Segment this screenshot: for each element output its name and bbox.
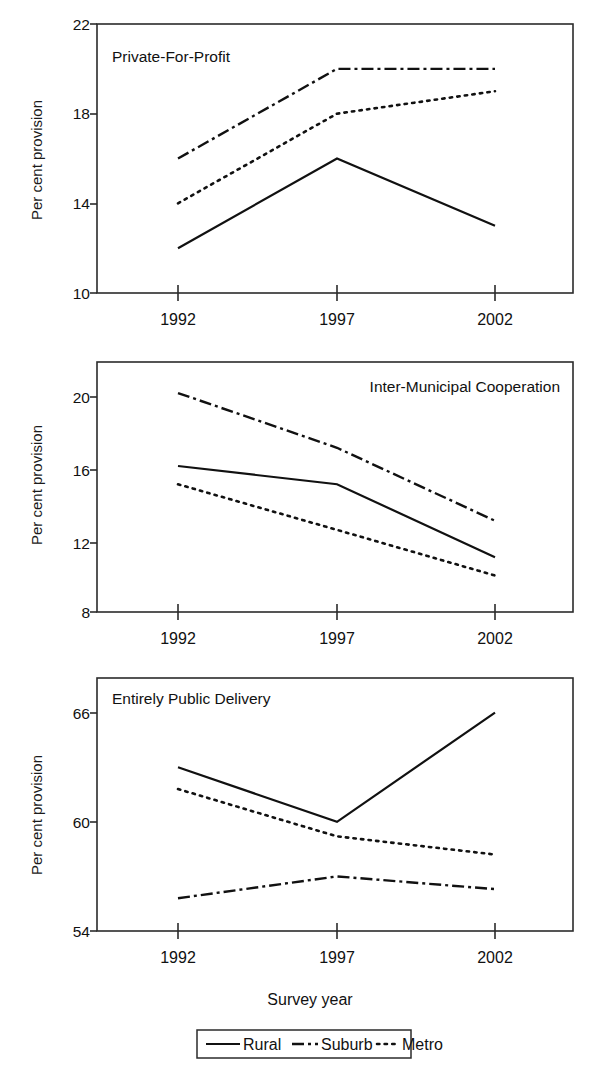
y-axis-title: Per cent provision xyxy=(28,425,45,545)
x-tick-label-1992: 1992 xyxy=(160,311,196,328)
y-axis-title: Per cent provision xyxy=(28,100,45,220)
x-tick-label-2002: 2002 xyxy=(477,311,513,328)
chart-panel-2: Per cent provision 20 16 12 8 1992 1997 … xyxy=(0,340,599,670)
figure-panel-series: Per cent provision 22 18 14 10 1992 1997… xyxy=(0,0,599,1077)
x-tick-label-1997: 1997 xyxy=(319,311,355,328)
y-tick-label-20: 20 xyxy=(73,389,91,406)
chart-1-svg: Per cent provision 22 18 14 10 1992 1997… xyxy=(0,0,599,340)
plot-frame xyxy=(97,678,573,931)
series-line-suburb xyxy=(178,393,495,521)
y-tick-label-66: 66 xyxy=(73,705,90,722)
x-tick-label-1992: 1992 xyxy=(160,630,196,647)
x-tick-label-1997: 1997 xyxy=(319,949,355,966)
legend-item-suburb[interactable]: Suburb xyxy=(292,1036,373,1053)
series-line-metro xyxy=(178,91,495,203)
x-axis-title: Survey year xyxy=(267,991,353,1008)
y-tick-label-10: 10 xyxy=(73,285,91,302)
y-tick-label-18: 18 xyxy=(73,105,90,122)
x-tick-label-2002: 2002 xyxy=(477,949,513,966)
series-line-rural xyxy=(178,713,495,822)
legend[interactable]: Rural Suburb Metro xyxy=(197,1030,443,1058)
panel-title: Entirely Public Delivery xyxy=(112,690,271,707)
x-tick-label-1992: 1992 xyxy=(160,949,196,966)
chart-panel-3: Per cent provision 66 60 54 1992 1997 20… xyxy=(0,670,599,1077)
y-tick-label-60: 60 xyxy=(73,814,91,831)
chart-panel-1: Per cent provision 22 18 14 10 1992 1997… xyxy=(0,0,599,340)
y-tick-label-8: 8 xyxy=(81,604,90,621)
x-tick-label-2002: 2002 xyxy=(477,630,513,647)
series-line-rural xyxy=(178,159,495,249)
series-line-metro xyxy=(178,484,495,575)
y-axis-title: Per cent provision xyxy=(28,755,45,875)
chart-2-svg: Per cent provision 20 16 12 8 1992 1997 … xyxy=(0,340,599,670)
y-tick-label-54: 54 xyxy=(73,923,91,940)
y-tick-label-12: 12 xyxy=(73,535,90,552)
legend-item-metro[interactable]: Metro xyxy=(377,1036,443,1053)
panel-title: Private-For-Profit xyxy=(112,48,231,65)
legend-item-rural[interactable]: Rural xyxy=(206,1036,281,1053)
series-line-suburb xyxy=(178,876,495,898)
x-tick-label-1997: 1997 xyxy=(319,630,355,647)
series-line-rural xyxy=(178,466,495,557)
y-tick-label-22: 22 xyxy=(73,16,90,33)
y-tick-label-14: 14 xyxy=(73,195,91,212)
plot-frame xyxy=(97,362,573,612)
legend-label-suburb: Suburb xyxy=(321,1036,373,1053)
legend-label-rural: Rural xyxy=(243,1036,281,1053)
chart-3-svg: Per cent provision 66 60 54 1992 1997 20… xyxy=(0,670,599,1077)
legend-label-metro: Metro xyxy=(402,1036,443,1053)
y-tick-label-16: 16 xyxy=(73,462,90,479)
panel-title: Inter-Municipal Cooperation xyxy=(370,378,560,395)
